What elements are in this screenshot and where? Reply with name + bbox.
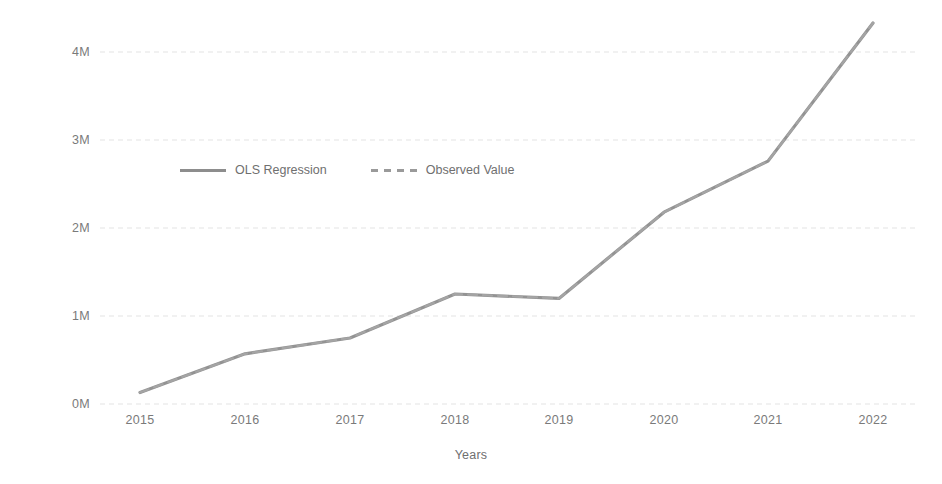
plot-area — [0, 0, 942, 484]
data-series-group — [140, 23, 873, 393]
series-line-solid — [140, 23, 873, 393]
grid-lines — [100, 52, 916, 404]
line-chart-figure: Purchased PPAs (MWh) 4M3M2M1M0M 20152016… — [0, 0, 942, 484]
series-line-dashed — [140, 23, 873, 393]
